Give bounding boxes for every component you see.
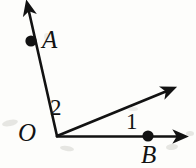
geometry-figure: A O B 2 1 [0,0,196,168]
angle-label-1: 1 [126,110,138,133]
point-dot-a [25,35,36,46]
point-label-b: B [141,142,156,167]
point-dot-b [142,130,153,141]
ray-middle [57,91,167,136]
angle-label-2: 2 [50,96,62,119]
point-label-a: A [42,27,57,52]
point-label-o: O [18,120,36,145]
